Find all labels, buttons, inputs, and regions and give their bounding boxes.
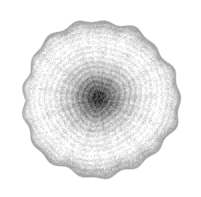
radial-ring-texture-image [0,0,201,197]
figure-container: Grayscale circular cross-section with co… [0,0,201,197]
